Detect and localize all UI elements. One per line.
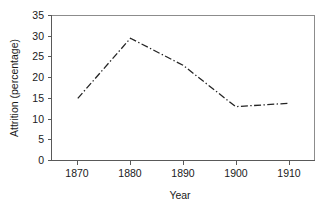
y-tick-label: 5 [38,133,44,145]
line-chart: 0 5 10 15 20 25 30 35 1870 1880 1890 190… [0,0,330,211]
y-tick-label: 10 [32,113,44,125]
x-tick-label: 1900 [224,167,248,179]
y-tick-label: 25 [32,50,44,62]
plot-frame [52,16,315,161]
x-axis-title: Year [169,189,191,201]
x-tick-marks [77,161,289,165]
x-tick-label: 1890 [171,167,195,179]
x-tick-label: 1880 [118,167,142,179]
y-tick-label: 30 [32,30,44,42]
data-series-attrition [78,38,288,106]
chart-canvas: 0 5 10 15 20 25 30 35 1870 1880 1890 190… [0,0,330,211]
y-tick-label: 0 [38,154,44,166]
y-tick-label: 20 [32,71,44,83]
x-tick-labels: 1870 1880 1890 1900 1910 [65,167,301,179]
y-axis-title: Attrition (percentage) [8,39,20,137]
y-tick-label: 35 [32,9,44,21]
y-tick-label: 15 [32,92,44,104]
x-tick-label: 1870 [65,167,89,179]
y-tick-labels: 0 5 10 15 20 25 30 35 [32,9,44,166]
y-tick-marks [48,16,52,161]
x-tick-label: 1910 [277,167,301,179]
